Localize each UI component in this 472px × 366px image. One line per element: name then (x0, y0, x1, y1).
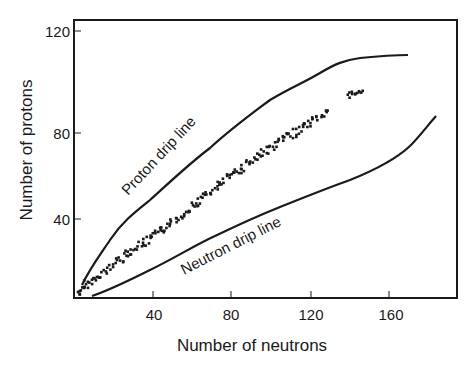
nuclide-point (211, 189, 214, 192)
nuclide-point (157, 231, 160, 234)
nuclide-point (240, 172, 243, 175)
nuclide-point (99, 276, 102, 279)
nuclide-point (102, 269, 105, 272)
nuclide-chart: 120 80 40 Number of protons 40 80 120 16… (0, 0, 472, 366)
nuclide-point (112, 263, 115, 266)
nuclide-point (142, 242, 145, 245)
nuclide-point (149, 234, 152, 237)
nuclide-point (306, 126, 309, 129)
nuclide-point (154, 230, 157, 233)
nuclide-point (240, 164, 243, 167)
nuclide-point (137, 241, 140, 244)
nuclide-point (240, 168, 243, 171)
nuclide-point (226, 173, 229, 176)
nuclide-point (166, 223, 169, 226)
nuclide-point (298, 126, 301, 129)
nuclide-point (295, 134, 298, 137)
nuclide-point (351, 91, 354, 94)
nuclide-point (275, 146, 278, 149)
nuclide-point (245, 159, 248, 162)
y-tick-label-120: 120 (45, 23, 70, 40)
nuclide-point (123, 252, 126, 255)
nuclide-point (252, 161, 255, 164)
nuclide-point (243, 170, 246, 173)
x-tick-label-40: 40 (146, 306, 163, 323)
plot-frame (74, 20, 457, 298)
neutron-drip-line-label: Neutron drip line (178, 213, 284, 278)
nuclide-point (268, 146, 271, 149)
nuclide-point (283, 136, 286, 139)
nuclide-point (348, 91, 351, 94)
nuclide-point (117, 256, 120, 259)
nuclide-point (276, 141, 279, 144)
nuclide-point (100, 271, 103, 274)
nuclide-point (112, 266, 115, 269)
nuclide-point (154, 232, 157, 235)
nuclide-point (231, 173, 234, 176)
proton-drip-line-label: Proton drip line (118, 113, 199, 198)
nuclide-point (136, 245, 139, 248)
nuclide-point (309, 122, 312, 125)
nuclide-point (146, 236, 149, 239)
nuclide-point (228, 177, 231, 180)
nuclide-point (159, 226, 162, 229)
nuclide-point (106, 266, 109, 269)
y-axis: 120 80 40 Number of protons (17, 23, 81, 228)
nuclide-point (320, 116, 323, 119)
nuclide-point (266, 152, 269, 155)
nuclide-point (152, 232, 155, 235)
nuclide-point (129, 248, 132, 251)
nuclide-point (92, 277, 95, 280)
y-tick-label-80: 80 (53, 125, 70, 142)
nuclide-point (273, 148, 276, 151)
nuclide-point (354, 93, 357, 96)
x-axis: 40 80 120 160 Number of neutrons (146, 291, 404, 355)
nuclide-point (262, 150, 265, 153)
nuclide-point (261, 154, 264, 157)
nuclide-point (114, 262, 117, 265)
nuclide-point (300, 130, 303, 133)
nuclide-point (96, 276, 99, 279)
nuclide-point (254, 158, 257, 161)
nuclide-point (191, 201, 194, 204)
nuclide-point (323, 115, 326, 118)
x-axis-title: Number of neutrons (177, 336, 327, 355)
nuclide-point (295, 128, 298, 131)
nuclide-point (91, 283, 94, 286)
nuclide-point (126, 250, 129, 253)
nuclide-point (108, 264, 111, 267)
nuclide-point (115, 257, 118, 260)
nuclide-point (205, 193, 208, 196)
nuclide-point (248, 161, 251, 164)
nuclide-point (309, 125, 312, 128)
nuclide-point (316, 119, 319, 122)
nuclide-point (87, 287, 90, 290)
nuclide-point (238, 172, 241, 175)
nuclide-point (197, 197, 200, 200)
nuclide-point (260, 148, 263, 151)
nuclide-point (130, 253, 133, 256)
nuclide-point (165, 227, 168, 230)
nuclide-point (287, 132, 290, 135)
nuclide-point (109, 268, 112, 271)
nuclide-point (258, 153, 261, 156)
nuclide-point (142, 244, 145, 247)
nuclide-point (119, 259, 122, 262)
nuclide-point (315, 116, 318, 119)
nuclide-point (311, 118, 314, 121)
nuclide-point (183, 213, 186, 216)
nuclide-point (360, 91, 363, 94)
y-tick-label-40: 40 (53, 211, 70, 228)
nuclide-point (222, 182, 225, 185)
nuclide-point (222, 177, 225, 180)
nuclide-point (127, 255, 130, 258)
nuclide-point (134, 248, 137, 251)
nuclide-point (292, 128, 295, 131)
nuclide-point (188, 210, 191, 213)
nuclide-point (177, 219, 180, 222)
nuclide-point (170, 220, 173, 223)
nuclide-point (83, 286, 86, 289)
nuclide-point (282, 139, 285, 142)
nuclide-point (169, 223, 172, 226)
nuclide-point (289, 135, 292, 138)
